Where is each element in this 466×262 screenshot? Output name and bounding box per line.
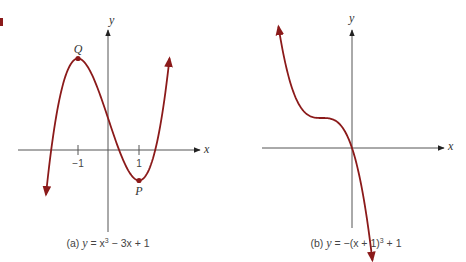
figure: y x −1 1 Q P (a) y = x3 − 3x + 1 y x (b)… (0, 0, 466, 262)
caption-a: (a) y = x3 − 3x + 1 (66, 236, 149, 251)
tick-label-neg1: −1 (72, 158, 83, 169)
x-axis-label-a: x (204, 142, 209, 157)
tick-label-1: 1 (136, 158, 142, 169)
caption-b-prefix: (b) (311, 237, 327, 249)
panel-b (262, 27, 444, 261)
point-p (136, 178, 141, 183)
x-axis-label-b: x (448, 139, 453, 154)
caption-b-rest: + 1 (384, 237, 402, 249)
point-label-p: P (135, 184, 142, 199)
caption-b-eq: = −(x + 1) (332, 237, 380, 249)
caption-a-prefix: (a) (66, 237, 82, 249)
y-axis-label-a: y (109, 13, 114, 28)
y-axis-label-b: y (349, 11, 354, 26)
caption-a-eq: = x (88, 237, 105, 249)
caption-a-rest: − 3x + 1 (109, 237, 150, 249)
caption-b: (b) y = −(x + 1)3 + 1 (311, 236, 402, 251)
panel-a (18, 30, 200, 232)
curve-b (279, 27, 373, 261)
figure-svg (0, 0, 466, 262)
point-label-q: Q (74, 42, 83, 57)
